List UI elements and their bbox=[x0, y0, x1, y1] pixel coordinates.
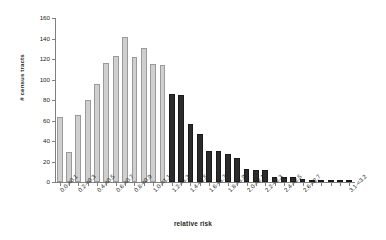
x-axis-tick bbox=[247, 183, 248, 186]
y-axis-tick bbox=[52, 162, 55, 163]
x-axis-tick bbox=[219, 183, 220, 186]
y-axis-tick bbox=[52, 18, 55, 19]
histogram-bar bbox=[169, 94, 175, 182]
x-axis-tick bbox=[106, 183, 107, 186]
histogram-bar bbox=[85, 100, 91, 182]
histogram-chart: # census tracts 020406080100120140160 re… bbox=[0, 0, 386, 240]
histogram-bar bbox=[178, 95, 184, 182]
y-axis-tick-label: 20 bbox=[16, 159, 50, 165]
y-axis-tick bbox=[52, 121, 55, 122]
x-axis-tick bbox=[293, 183, 294, 186]
histogram-bar bbox=[141, 48, 147, 182]
histogram-bar bbox=[328, 180, 334, 182]
histogram-bar bbox=[337, 180, 343, 182]
x-axis-tick bbox=[125, 183, 126, 186]
y-axis-tick-label: 80 bbox=[16, 97, 50, 103]
histogram-bar bbox=[113, 56, 119, 182]
y-axis-tick bbox=[52, 39, 55, 40]
x-axis-tick bbox=[340, 183, 341, 186]
y-axis-tick-labels: 020406080100120140160 bbox=[12, 0, 50, 240]
x-axis-title: relative risk bbox=[0, 220, 386, 227]
histogram-bar bbox=[160, 65, 166, 182]
x-axis-tick bbox=[88, 183, 89, 186]
x-axis-tick bbox=[181, 183, 182, 186]
y-axis-tick-label: 160 bbox=[16, 15, 50, 21]
y-axis-tick-label: 60 bbox=[16, 118, 50, 124]
histogram-bar bbox=[103, 63, 109, 182]
y-axis-tick bbox=[52, 80, 55, 81]
histogram-bar bbox=[188, 124, 194, 182]
x-axis-tick bbox=[162, 183, 163, 186]
y-axis-tick bbox=[52, 100, 55, 101]
x-axis-tick bbox=[200, 183, 201, 186]
x-axis-tick bbox=[256, 183, 257, 186]
histogram-bar bbox=[94, 84, 100, 182]
x-axis-tick bbox=[303, 183, 304, 186]
y-axis-tick bbox=[52, 182, 55, 183]
y-axis-tick-label: 40 bbox=[16, 138, 50, 144]
histogram-bar bbox=[57, 117, 63, 182]
plot-area bbox=[55, 18, 354, 182]
histogram-bar bbox=[150, 64, 156, 182]
x-axis-tick bbox=[69, 183, 70, 186]
histogram-bar bbox=[75, 115, 81, 182]
x-axis-tick bbox=[237, 183, 238, 186]
histogram-bar bbox=[318, 180, 324, 182]
x-axis-tick bbox=[331, 183, 332, 186]
x-axis-tick bbox=[144, 183, 145, 186]
histogram-bar bbox=[346, 180, 352, 182]
histogram-bar bbox=[132, 57, 138, 182]
y-axis-tick bbox=[52, 141, 55, 142]
y-axis-tick-label: 140 bbox=[16, 36, 50, 42]
y-axis-tick-label: 120 bbox=[16, 56, 50, 62]
y-axis-tick bbox=[52, 59, 55, 60]
x-axis-tick bbox=[321, 183, 322, 186]
x-axis-tick bbox=[275, 183, 276, 186]
y-axis-tick-label: 0 bbox=[16, 179, 50, 185]
histogram-bar bbox=[122, 37, 128, 182]
y-axis-tick-label: 100 bbox=[16, 77, 50, 83]
x-axis-tick bbox=[312, 183, 313, 186]
